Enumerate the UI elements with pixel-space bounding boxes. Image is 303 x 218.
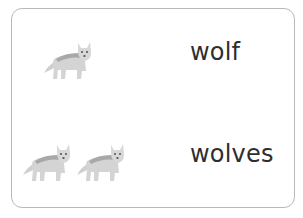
wolf-icon — [42, 37, 94, 81]
wolf-icon — [21, 139, 73, 183]
wolf-icon — [75, 139, 127, 183]
singular-word: wolf — [190, 38, 240, 66]
singular-row: wolf — [12, 9, 294, 109]
plural-row: wolves — [12, 109, 294, 209]
plural-word: wolves — [190, 140, 274, 168]
flashcard: wolf wolves — [11, 8, 295, 208]
